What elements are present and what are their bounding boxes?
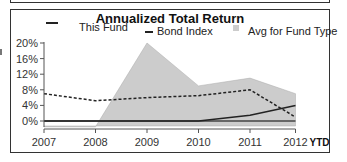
y-tick-label: 8% [22,84,38,96]
plot-area: 20%16%12%8%4%0%200720082009201020112012Y… [11,10,329,152]
side-marker [0,49,2,55]
x-tick-label: 2007 [32,136,56,148]
x-tick-label: 2010 [186,136,210,148]
ytd-label: YTD [310,137,330,148]
avg-fund-type-area [44,43,296,127]
chart-frame: Annualized Total Return This Fund Bond I… [10,9,330,153]
y-tick-label: 0% [22,115,38,127]
y-tick-label: 4% [22,99,38,111]
upper-panel-border [10,0,330,3]
y-tick-label: 20% [16,37,38,49]
x-tick-label: 2008 [83,136,107,148]
x-tick-label: 2012 [283,136,307,148]
y-tick-label: 12% [16,68,38,80]
y-tick-label: 16% [16,53,38,65]
x-tick-label: 2011 [238,136,262,148]
x-tick-label: 2009 [135,136,159,148]
